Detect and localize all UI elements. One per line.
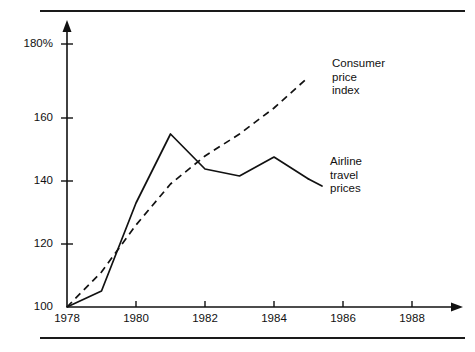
series-consumer-price-index	[67, 77, 309, 307]
x-axis-label-1982: 1982	[175, 312, 235, 324]
x-axis-label-1984: 1984	[244, 312, 304, 324]
chart-plot-area	[0, 0, 475, 352]
x-axis-label-1978: 1978	[37, 312, 97, 324]
x-axis-arrowhead	[451, 303, 463, 312]
airline-label-line-3: prices	[330, 182, 362, 196]
series-airline-travel-prices	[67, 134, 309, 307]
y-axis-label-100: 100	[8, 300, 53, 312]
cpi-label-line-2: price	[332, 71, 385, 85]
cpi-label-line-3: index	[332, 84, 385, 98]
x-axis-label-1988: 1988	[382, 312, 442, 324]
y-axis-label-160: 160	[8, 111, 53, 123]
y-axis-label-140: 140	[8, 174, 53, 186]
x-axis-label-1986: 1986	[313, 312, 373, 324]
chart-figure: 180% 160 140 120 100 1978 1980 1982 1984…	[0, 0, 475, 352]
y-axis-label-120: 120	[8, 237, 53, 249]
airline-label-line-1: Airline	[330, 155, 362, 169]
cpi-label-line-1: Consumer	[332, 57, 385, 71]
x-axis-label-1980: 1980	[106, 312, 166, 324]
series-label-consumer-price-index: Consumer price index	[332, 57, 385, 98]
airline-label-leader-line	[309, 179, 323, 186]
y-axis-label-180: 180%	[8, 37, 53, 49]
airline-label-line-2: travel	[330, 169, 362, 183]
y-axis-arrowhead	[63, 20, 72, 32]
series-label-airline-travel-prices: Airline travel prices	[330, 155, 362, 196]
